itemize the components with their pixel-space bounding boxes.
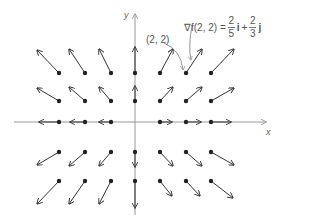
gradient-lhs: ∇f(2, 2) = [184, 22, 226, 33]
denominator: 5 [228, 29, 234, 39]
gradient-arrow [160, 181, 172, 196]
grid-point [184, 71, 188, 75]
grid-point [83, 150, 87, 154]
gradient-arrow [37, 50, 59, 73]
y-axis-label: y [124, 10, 129, 20]
gradient-arrow [99, 152, 111, 166]
grid-point [133, 150, 137, 154]
gradient-arrow [186, 152, 202, 166]
gradient-arrow [211, 152, 234, 165]
gradient-arrow [99, 49, 111, 73]
grid-point [83, 120, 87, 124]
x-axis-label: x [266, 127, 271, 137]
grid-point [209, 71, 213, 75]
gradient-arrow [69, 181, 85, 204]
gradient-arrow [186, 87, 202, 101]
grid-point [109, 179, 113, 183]
grid-point [109, 120, 113, 124]
grid-point [158, 150, 162, 154]
plus-sign: + [242, 22, 248, 33]
gradient-equation: ∇f(2, 2) = 2 5 i + 2 3 j [184, 16, 261, 39]
gradient-arrow [37, 152, 59, 165]
grid-point [57, 71, 61, 75]
grid-point [83, 179, 87, 183]
numerator: 2 [250, 16, 256, 26]
grid-point [133, 99, 137, 103]
gradient-arrow [99, 87, 111, 101]
grid-point [209, 120, 213, 124]
gradient-arrow [69, 152, 85, 166]
gradient-arrow [160, 49, 173, 73]
unit-i: i [237, 22, 240, 33]
grid-point [209, 150, 213, 154]
grid-point [109, 99, 113, 103]
grid-point [57, 150, 61, 154]
grid-point [209, 179, 213, 183]
fraction-j: 2 3 [249, 16, 256, 39]
grid-point [209, 99, 213, 103]
gradient-arrow [69, 87, 85, 101]
gradient-arrow [37, 181, 59, 204]
grid-point [184, 179, 188, 183]
grid-point [158, 120, 162, 124]
gradient-arrow [211, 88, 234, 101]
grid-point [57, 99, 61, 103]
grid-point [133, 179, 137, 183]
gradient-arrow [186, 49, 202, 73]
gradient-arrow [160, 87, 173, 101]
grid-point [57, 120, 61, 124]
gradient-arrow [211, 49, 234, 73]
fraction-i: 2 5 [228, 16, 235, 39]
gradient-arrow [99, 181, 111, 204]
grid-point [83, 99, 87, 103]
point-label-leader [164, 43, 183, 70]
gradient-arrow [160, 152, 173, 166]
gradient-arrow [211, 181, 233, 198]
grid-point [158, 179, 162, 183]
gradient-arrow [69, 49, 85, 73]
grid-point [184, 120, 188, 124]
grid-point [158, 99, 162, 103]
grid-point [133, 71, 137, 75]
gradient-arrow [37, 88, 59, 101]
grid-point [83, 71, 87, 75]
unit-j: j [258, 22, 261, 33]
grid-point [109, 71, 113, 75]
grid-point [109, 150, 113, 154]
gradient-arrow [186, 181, 200, 196]
grid-point [57, 179, 61, 183]
grid-point [184, 99, 188, 103]
grid-point [158, 71, 162, 75]
point-label: (2, 2) [146, 34, 169, 45]
grid-point [184, 150, 188, 154]
denominator: 3 [250, 29, 256, 39]
numerator: 2 [228, 16, 234, 26]
